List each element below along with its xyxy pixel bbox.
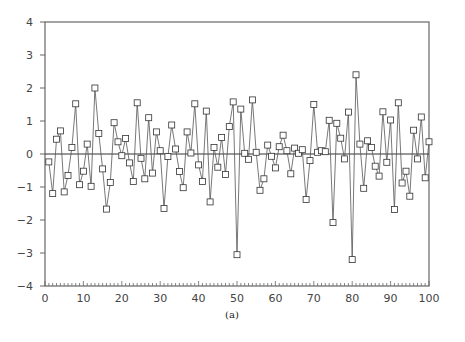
data-point-marker: [88, 183, 94, 189]
data-point-marker: [165, 154, 171, 160]
data-point-marker: [61, 189, 67, 195]
data-point-marker: [368, 144, 374, 150]
data-point-marker: [115, 139, 121, 145]
data-point-marker: [199, 178, 205, 184]
figure-caption: (a): [225, 309, 239, 320]
data-point-marker: [150, 170, 156, 176]
y-tick-label: −2: [17, 214, 33, 227]
data-point-marker: [330, 220, 336, 226]
data-point-marker: [69, 144, 75, 150]
data-point-marker: [184, 129, 190, 135]
data-point-marker: [261, 176, 267, 182]
data-point-marker: [238, 106, 244, 112]
data-point-marker: [46, 159, 52, 165]
data-point-marker: [234, 252, 240, 258]
y-tick-label: 3: [26, 49, 33, 62]
x-tick-label: 60: [268, 292, 282, 305]
data-point-marker: [211, 144, 217, 150]
data-point-marker: [361, 185, 367, 191]
data-point-marker: [223, 172, 229, 178]
data-point-marker: [307, 158, 313, 164]
x-tick-label: 0: [42, 292, 49, 305]
data-point-marker: [192, 101, 198, 107]
data-point-marker: [365, 138, 371, 144]
data-point-marker: [326, 117, 332, 123]
data-point-marker: [92, 85, 98, 91]
data-point-marker: [226, 124, 232, 130]
data-point-marker: [345, 109, 351, 115]
y-tick-label: 2: [26, 82, 33, 95]
x-tick-label: 100: [419, 292, 440, 305]
y-tick-label: −4: [17, 280, 33, 293]
data-point-marker: [288, 171, 294, 177]
y-axis: −4−3−2−101234: [17, 16, 45, 293]
data-point-marker: [196, 162, 202, 168]
x-axis: 0102030405060708090100: [42, 281, 440, 305]
data-point-marker: [123, 136, 129, 142]
data-point-marker: [84, 141, 90, 147]
x-tick-label: 30: [153, 292, 167, 305]
x-tick-label: 10: [76, 292, 90, 305]
data-point-marker: [50, 191, 56, 197]
y-tick-label: 0: [26, 148, 33, 161]
data-point-marker: [257, 187, 263, 193]
data-point-marker: [299, 147, 305, 153]
data-point-marker: [415, 156, 421, 162]
data-point-marker: [422, 175, 428, 181]
data-point-marker: [203, 108, 209, 114]
data-point-marker: [138, 155, 144, 161]
data-point-marker: [103, 206, 109, 212]
data-point-marker: [219, 135, 225, 141]
data-point-marker: [96, 131, 102, 137]
data-point-marker: [77, 182, 83, 188]
data-point-marker: [399, 180, 405, 186]
data-point-marker: [395, 100, 401, 106]
data-point-marker: [130, 178, 136, 184]
data-point-marker: [161, 205, 167, 211]
data-point-marker: [73, 101, 79, 107]
data-point-marker: [246, 156, 252, 162]
data-point-marker: [65, 172, 71, 178]
data-point-marker: [357, 141, 363, 147]
data-point-marker: [280, 132, 286, 138]
x-tick-label: 50: [230, 292, 244, 305]
data-point-marker: [303, 197, 309, 203]
data-point-marker: [80, 168, 86, 174]
data-point-marker: [276, 144, 282, 150]
x-tick-label: 90: [384, 292, 398, 305]
data-point-marker: [127, 160, 133, 166]
data-point-marker: [249, 97, 255, 103]
data-point-marker: [57, 128, 63, 134]
x-tick-label: 20: [115, 292, 129, 305]
data-point-marker: [403, 168, 409, 174]
data-point-marker: [272, 165, 278, 171]
data-point-marker: [119, 153, 125, 159]
data-point-marker: [353, 72, 359, 78]
data-point-marker: [407, 193, 413, 199]
data-point-marker: [269, 153, 275, 159]
y-tick-label: 1: [26, 115, 33, 128]
y-tick-label: 4: [26, 16, 33, 29]
data-point-marker: [107, 179, 113, 185]
data-point-marker: [380, 109, 386, 115]
data-point-marker: [207, 199, 213, 205]
x-tick-label: 80: [345, 292, 359, 305]
data-point-marker: [372, 163, 378, 169]
data-point-marker: [169, 122, 175, 128]
x-tick-label: 40: [192, 292, 206, 305]
data-point-marker: [376, 173, 382, 179]
data-point-marker: [338, 135, 344, 141]
data-point-marker: [334, 120, 340, 126]
data-point-marker: [54, 136, 60, 142]
data-point-marker: [215, 164, 221, 170]
x-tick-label: 70: [307, 292, 321, 305]
data-point-marker: [391, 206, 397, 212]
data-point-marker: [253, 149, 259, 155]
data-point-marker: [284, 148, 290, 154]
y-tick-label: −3: [17, 247, 33, 260]
data-point-marker: [157, 148, 163, 154]
data-point-marker: [388, 117, 394, 123]
data-point-marker: [384, 159, 390, 165]
data-point-marker: [426, 139, 432, 145]
line-chart: −4−3−2−101234 0102030405060708090100 (a): [0, 0, 465, 342]
